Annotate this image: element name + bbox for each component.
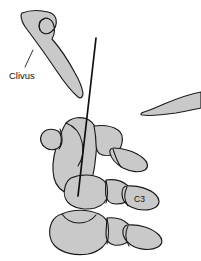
occipital-wedge-bone bbox=[141, 92, 201, 115]
clivus-leader-line bbox=[25, 50, 33, 67]
clivus-bone bbox=[21, 11, 83, 98]
anatomical-figure: Clivus C3 bbox=[0, 0, 201, 261]
axis-spinous-process bbox=[110, 148, 148, 172]
craniocervical-diagram: Clivus C3 bbox=[0, 0, 201, 261]
c3-label: C3 bbox=[134, 194, 145, 204]
c4-vertebra-body bbox=[50, 210, 110, 254]
atlas-transverse-process bbox=[41, 129, 62, 149]
c3-vertebra-body bbox=[64, 175, 108, 209]
clivus-label: Clivus bbox=[9, 70, 35, 81]
